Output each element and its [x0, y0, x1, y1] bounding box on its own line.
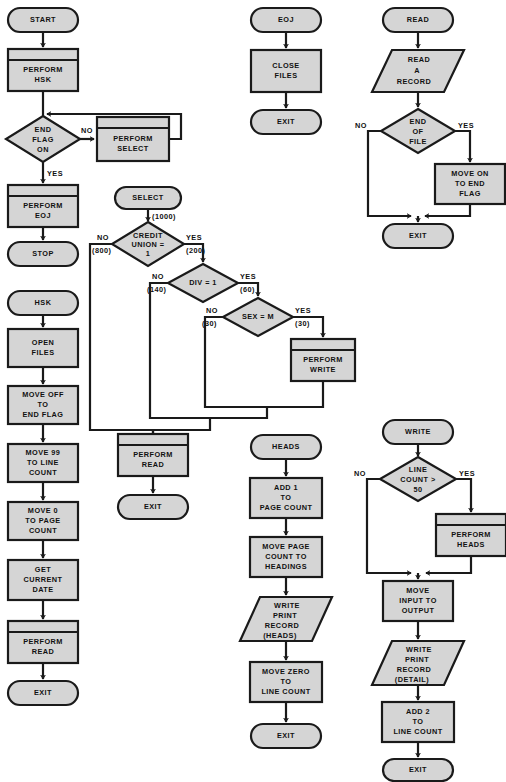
branch-label-cu-yes: YES [186, 233, 202, 242]
node-line-count-50[interactable]: LINE COUNT > 50 [380, 457, 456, 501]
node-stop[interactable]: STOP [8, 242, 78, 266]
node-select-perform-read[interactable]: PERFORM READ [118, 434, 188, 476]
node-add-1-page-line1: ADD 1 [274, 483, 298, 492]
node-sex-m-label: SEX = M [242, 312, 274, 321]
node-add-1-page-line2: TO [281, 493, 292, 502]
module-select: SELECT (1000) CREDIT UNION = 1 NO (800) … [90, 187, 355, 519]
node-credit-union[interactable]: CREDIT UNION = 1 [112, 222, 184, 266]
node-perform-select-line1: PERFORM [113, 134, 153, 143]
branch-label-eof-yes: YES [458, 121, 474, 130]
node-write-entry[interactable]: WRITE [383, 420, 453, 444]
node-select-exit[interactable]: EXIT [118, 495, 188, 519]
node-perform-eoj-line2: EOJ [35, 211, 51, 220]
node-move-on-end-flag-line3: FLAG [459, 189, 481, 198]
node-move-0-page-line2: TO PAGE [25, 516, 60, 525]
node-close-files-line1: CLOSE [272, 61, 299, 70]
node-write-print-heads[interactable]: WRITE PRINT RECORD (HEADS) [240, 597, 332, 641]
module-eoj: EOJ CLOSE FILES EXIT [251, 8, 321, 134]
node-sex-m[interactable]: SEX = M [223, 298, 293, 336]
node-write-exit-label: EXIT [409, 765, 427, 774]
node-end-flag-on-line2: FLAG [32, 135, 54, 144]
node-move-zero-line3: LINE COUNT [261, 687, 310, 696]
node-add-2-line-count-line1: ADD 2 [406, 707, 430, 716]
node-move-zero-line1: MOVE ZERO [262, 667, 310, 676]
node-move-off-flag[interactable]: MOVE OFF TO END FLAG [8, 386, 78, 424]
node-move-zero-line[interactable]: MOVE ZERO TO LINE COUNT [250, 662, 322, 702]
node-perform-eoj-line1: PERFORM [23, 201, 63, 210]
node-read-label: READ [407, 15, 429, 24]
node-line-count-50-line1: LINE [409, 465, 427, 474]
branch-label-sex-yes: YES [295, 306, 311, 315]
node-end-flag-on-line3: ON [37, 145, 49, 154]
node-move-zero-line2: TO [281, 677, 292, 686]
node-move-input-output-line1: MOVE [406, 586, 429, 595]
node-select-perform-read-line1: PERFORM [133, 450, 173, 459]
node-perform-write[interactable]: PERFORM WRITE [291, 339, 355, 381]
conn-write-merge [267, 381, 323, 407]
branch-label-sex-30-yes: (30) [295, 319, 310, 328]
node-add-2-line-count[interactable]: ADD 2 TO LINE COUNT [382, 702, 454, 742]
node-heads-label: HEADS [272, 442, 300, 451]
node-open-files-line2: FILES [32, 348, 55, 357]
node-perform-heads-line2: HEADS [457, 540, 485, 549]
node-perform-heads[interactable]: PERFORM HEADS [436, 514, 506, 556]
node-close-files[interactable]: CLOSE FILES [251, 50, 321, 92]
node-read[interactable]: READ [383, 8, 453, 32]
node-get-date-line1: GET [35, 565, 51, 574]
conn-perfheads-merge [426, 556, 471, 573]
node-perform-write-line1: PERFORM [303, 355, 343, 364]
node-move-0-page-line3: COUNT [29, 526, 57, 535]
node-get-date[interactable]: GET CURRENT DATE [8, 560, 78, 600]
node-open-files[interactable]: OPEN FILES [8, 329, 78, 367]
node-perform-hsk[interactable]: PERFORM HSK [8, 49, 78, 91]
node-write-print-detail[interactable]: WRITE PRINT RECORD (DETAIL) [372, 641, 464, 685]
node-eoj-exit[interactable]: EXIT [251, 110, 321, 134]
node-end-of-file-line1: END [410, 117, 427, 126]
node-move-on-end-flag-line1: MOVE ON [451, 169, 489, 178]
node-perform-hsk-line1: PERFORM [23, 65, 63, 74]
node-end-of-file[interactable]: END OF FILE [381, 109, 455, 153]
node-perform-eoj[interactable]: PERFORM EOJ [8, 185, 78, 227]
node-eoj[interactable]: EOJ [251, 8, 321, 32]
node-move-0-page[interactable]: MOVE 0 TO PAGE COUNT [8, 502, 78, 540]
conn-midrail-outerrail [149, 418, 210, 430]
node-move-page-headings-line3: HEADINGS [265, 562, 307, 571]
node-heads[interactable]: HEADS [251, 435, 321, 459]
node-add-2-line-count-line2: TO [413, 717, 424, 726]
node-heads-exit[interactable]: EXIT [251, 724, 321, 748]
node-credit-union-line2: UNION = [132, 240, 165, 249]
branch-label-sex-no: NO [206, 306, 218, 315]
node-hsk[interactable]: HSK [8, 291, 78, 315]
node-read-exit[interactable]: EXIT [383, 224, 453, 248]
node-move-on-end-flag[interactable]: MOVE ON TO END FLAG [435, 164, 505, 204]
node-hsk-perform-read[interactable]: PERFORM READ [8, 621, 78, 663]
node-end-flag-on[interactable]: END FLAG ON [6, 116, 80, 162]
node-hsk-exit-label: EXIT [34, 688, 52, 697]
node-hsk-exit[interactable]: EXIT [8, 681, 78, 705]
conn-eof-yes-moveon [455, 131, 470, 162]
node-select[interactable]: SELECT [115, 187, 181, 209]
node-read-a-record-line1: READ [408, 55, 430, 64]
node-move-page-headings[interactable]: MOVE PAGE COUNT TO HEADINGS [250, 537, 322, 577]
node-add-1-page-line3: PAGE COUNT [260, 503, 313, 512]
node-write-exit[interactable]: EXIT [383, 759, 453, 781]
conn-innerrail-midrail [210, 407, 267, 418]
node-move-on-end-flag-line2: TO END [455, 179, 485, 188]
branch-label-div-60: (60) [240, 285, 255, 294]
node-write-print-detail-line3: RECORD [397, 665, 431, 674]
node-stop-label: STOP [32, 249, 54, 258]
branch-label-cu-no: NO [97, 233, 109, 242]
node-div-1[interactable]: DIV = 1 [168, 264, 238, 302]
node-perform-select[interactable]: PERFORM SELECT [97, 117, 169, 161]
node-read-a-record[interactable]: READ A RECORD [372, 50, 464, 92]
node-add-2-line-count-line3: LINE COUNT [393, 727, 442, 736]
node-line-count-50-line2: COUNT > [400, 475, 435, 484]
node-move-99-line[interactable]: MOVE 99 TO LINE COUNT [8, 444, 78, 482]
node-move-input-output[interactable]: MOVE INPUT TO OUTPUT [383, 581, 453, 621]
node-start[interactable]: START [8, 8, 78, 32]
node-write-print-heads-line3: RECORD [265, 621, 299, 630]
node-add-1-page[interactable]: ADD 1 TO PAGE COUNT [250, 478, 322, 518]
node-hsk-label: HSK [35, 298, 52, 307]
module-heads: HEADS ADD 1 TO PAGE COUNT MOVE PAGE COUN… [240, 435, 332, 748]
node-eoj-exit-label: EXIT [277, 117, 295, 126]
